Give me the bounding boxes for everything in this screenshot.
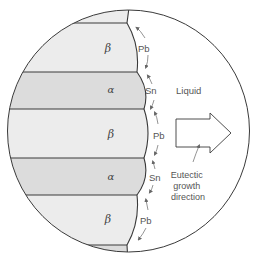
diffusion-label-sn-1: Sn [145,85,157,96]
phase-beta-3 [0,195,138,245]
diffusion-label-pb-3: Pb [140,215,152,226]
diffusion-arrow-icon [139,228,146,239]
diffusion-arrow-icon [155,113,158,124]
growth-label-line-2: growth [173,181,200,191]
growth-label-line-1: Eutectic [171,170,204,180]
diffusion-label-pb-2: Pb [153,130,165,141]
phase-bottom-sliver [0,245,128,263]
diffusion-arrow-icon [146,200,148,210]
phase-label-beta-1: β [104,42,111,55]
diffusion-arrow-icon [148,76,152,84]
solid-region [0,0,148,263]
growth-direction-label: Eutectic growth direction [171,170,206,202]
leader-line [193,146,199,162]
diffusion-arrow-icon [146,55,148,67]
diffusion-arrow-icon [151,100,154,108]
diffusion-label-sn-2: Sn [149,172,161,183]
diffusion-arrow-icon [155,145,158,154]
phase-beta-1 [0,23,138,72]
phase-alpha-2 [0,158,146,195]
eutectic-diagram: β α β α β Pb Sn Pb Sn Pb Liquid Eutectic… [0,0,253,263]
phase-beta-2 [0,109,148,158]
growth-label-line-3: direction [171,192,205,202]
diffusion-arrow-icon [150,185,153,192]
phase-label-alpha-1: α [108,84,115,95]
diffusion-arrow-icon [137,28,145,38]
diffusion-label-pb-1: Pb [138,43,150,54]
phase-label-beta-3: β [104,213,111,226]
phase-alpha-1 [0,72,146,109]
phase-label-beta-2: β [107,128,114,141]
diffusion-arrow-icon [153,162,155,169]
phase-label-alpha-2: α [108,171,115,182]
liquid-label: Liquid [176,85,201,96]
growth-direction-arrow-icon [176,113,231,153]
